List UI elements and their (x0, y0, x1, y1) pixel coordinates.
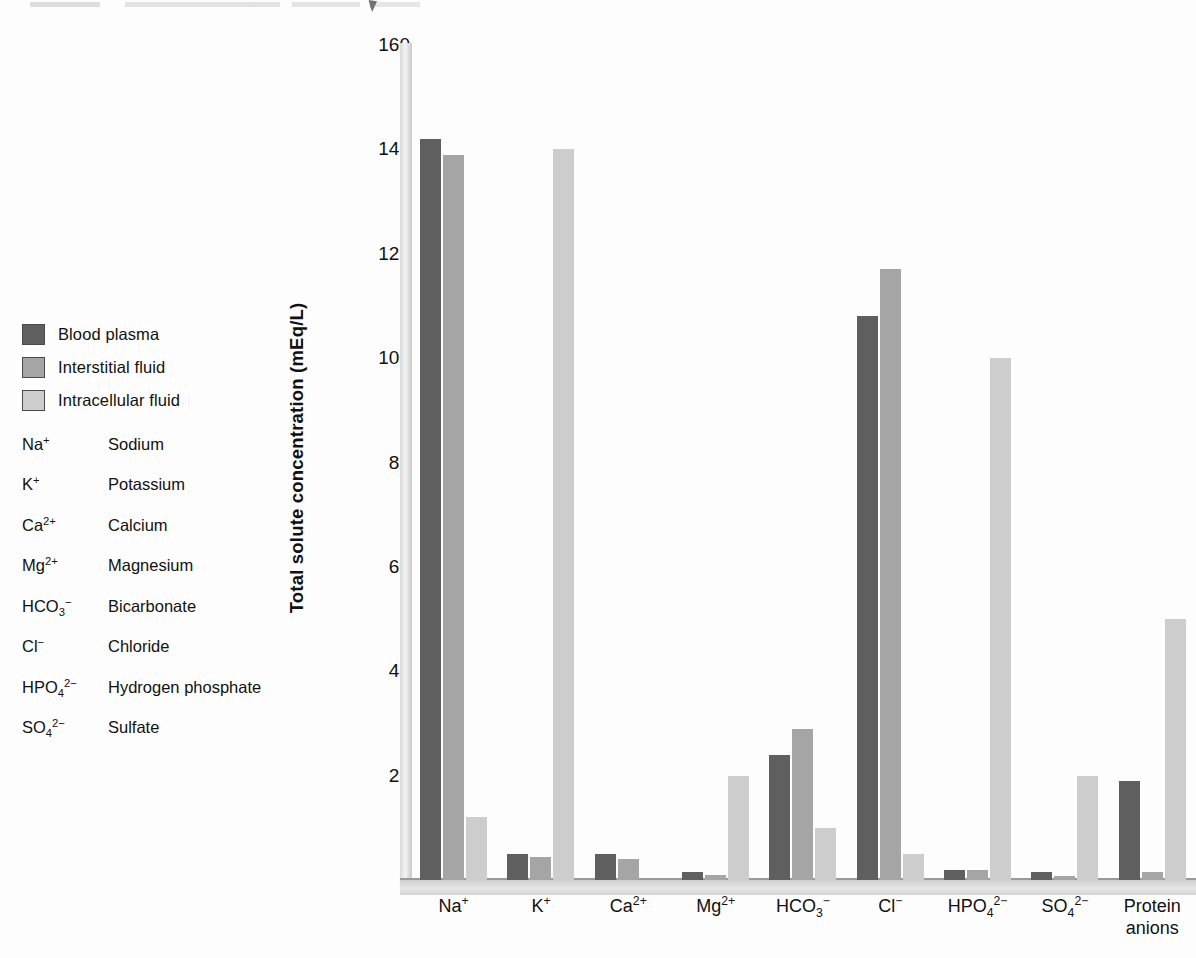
ion-key-row: K+Potassium (22, 475, 322, 493)
plot-floor (400, 880, 1196, 895)
bar (1119, 781, 1140, 880)
x-axis-label: HPO42− (934, 896, 1021, 940)
bar-group (1021, 45, 1108, 880)
legend-item-label: Intracellular fluid (58, 391, 180, 410)
bar (944, 870, 965, 880)
bar (769, 755, 790, 880)
ion-symbol: HPO42− (22, 678, 108, 696)
x-axis-label: HCO3− (759, 896, 846, 940)
bar (618, 859, 639, 880)
bar (880, 269, 901, 880)
ion-name: Sulfate (108, 718, 322, 736)
bar (792, 729, 813, 880)
ion-symbol: K+ (22, 475, 108, 493)
bar (815, 828, 836, 880)
bar (857, 316, 878, 880)
bar (705, 875, 726, 880)
ion-symbol: SO42− (22, 718, 108, 736)
bar (682, 872, 703, 880)
x-axis-label: Na+ (410, 896, 497, 940)
ion-key-row: HPO42−Hydrogen phosphate (22, 678, 322, 696)
x-axis-label: K+ (497, 896, 584, 940)
ion-key-row: Na+Sodium (22, 435, 322, 453)
bar-group (847, 45, 934, 880)
figure-page: Blood plasmaInterstitial fluidIntracellu… (0, 0, 1196, 958)
plot-area (410, 45, 1196, 880)
legend-item: Interstitial fluid (22, 351, 312, 384)
bar (967, 870, 988, 880)
x-axis-label: Mg2+ (672, 896, 759, 940)
ion-key-row: HCO3−Bicarbonate (22, 597, 322, 615)
ion-symbol: HCO3− (22, 597, 108, 615)
chart-legend: Blood plasmaInterstitial fluidIntracellu… (22, 318, 312, 417)
ion-key-row: Ca2+Calcium (22, 516, 322, 534)
y-axis-title: Total solute concentration (mEq/L) (286, 208, 308, 708)
x-axis-label: Ca2+ (585, 896, 672, 940)
bar-group (1109, 45, 1196, 880)
bar (1031, 872, 1052, 880)
chart: Total solute concentration (mEq/L) 02040… (330, 28, 1196, 958)
x-axis-labels: Na+K+Ca2+Mg2+HCO3−Cl−HPO42−SO42−Proteina… (410, 896, 1196, 940)
ion-symbol: Na+ (22, 435, 108, 453)
bar (553, 149, 574, 880)
ion-symbol: Ca2+ (22, 516, 108, 534)
bar (903, 854, 924, 880)
ion-symbol: Cl− (22, 637, 108, 655)
bar (507, 854, 528, 880)
x-axis-label: Proteinanions (1109, 896, 1196, 940)
legend-swatch (22, 390, 45, 411)
bar (990, 358, 1011, 880)
ion-symbol: Mg2+ (22, 556, 108, 574)
scan-artifact (30, 2, 590, 7)
legend-swatch (22, 324, 45, 345)
bar-group (410, 45, 497, 880)
bar (443, 155, 464, 880)
bar-group (934, 45, 1021, 880)
bar (1077, 776, 1098, 880)
bar (1165, 619, 1186, 880)
bar (1142, 872, 1163, 880)
bar (595, 854, 616, 880)
bar (728, 776, 749, 880)
bar (1054, 876, 1075, 880)
legend-item-label: Blood plasma (58, 325, 159, 344)
bar-group (497, 45, 584, 880)
bar (420, 139, 441, 880)
bar-group (585, 45, 672, 880)
bar-groups (410, 45, 1196, 880)
ion-key-row: Cl−Chloride (22, 637, 322, 655)
ion-key-row: Mg2+Magnesium (22, 556, 322, 574)
ion-key-list: Na+SodiumK+PotassiumCa2+CalciumMg2+Magne… (22, 435, 322, 759)
legend-item-label: Interstitial fluid (58, 358, 165, 377)
legend-swatch (22, 357, 45, 378)
bar (530, 857, 551, 880)
legend-item: Blood plasma (22, 318, 312, 351)
x-axis-label: Cl− (847, 896, 934, 940)
x-axis-label: SO42− (1021, 896, 1108, 940)
bar-group (759, 45, 846, 880)
bar-group (672, 45, 759, 880)
legend-item: Intracellular fluid (22, 384, 312, 417)
bar (466, 817, 487, 880)
ion-key-row: SO42−Sulfate (22, 718, 322, 736)
